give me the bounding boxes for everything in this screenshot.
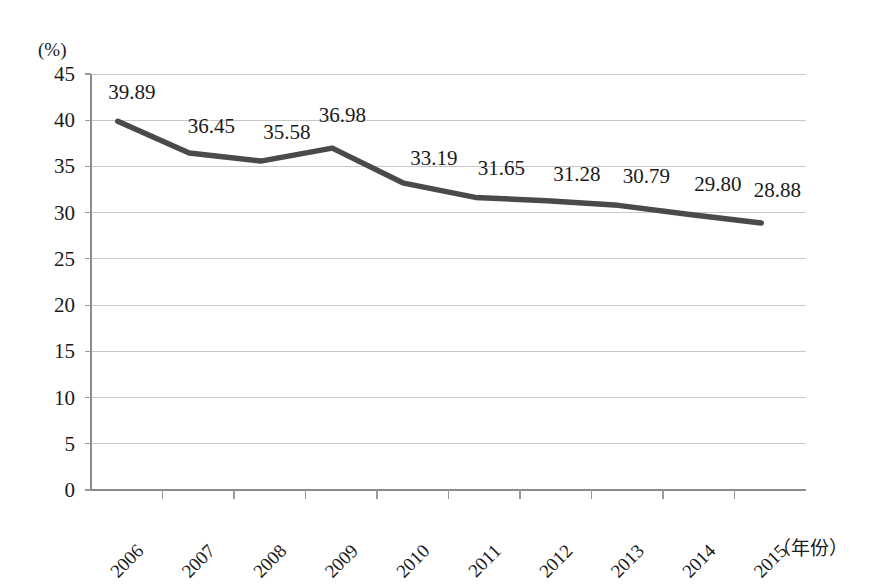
y-axis-tick-label: 30 <box>54 201 75 225</box>
y-axis-tick-label: 10 <box>54 386 75 410</box>
y-axis-tick-label: 0 <box>65 478 76 502</box>
y-axis-tick-label: 45 <box>54 62 75 86</box>
line-chart: (%) 454035302520151050 20062007200820092… <box>0 0 874 587</box>
data-point-label: 29.80 <box>694 172 741 196</box>
y-axis-tick-label: 35 <box>54 154 75 178</box>
data-point-label: 35.58 <box>263 120 310 144</box>
data-point-label: 28.88 <box>754 178 801 202</box>
data-point-label: 31.28 <box>553 162 600 186</box>
y-axis-tick-label: 15 <box>54 339 75 363</box>
data-point-label: 33.19 <box>410 146 457 170</box>
data-point-label: 36.45 <box>188 114 235 138</box>
y-axis-unit-label: (%) <box>38 39 66 61</box>
data-point-label: 31.65 <box>478 156 525 180</box>
data-point-label: 39.89 <box>108 80 155 104</box>
y-axis-tick-label: 25 <box>54 247 75 271</box>
chart-canvas: (%) 454035302520151050 20062007200820092… <box>0 0 874 587</box>
data-point-label: 36.98 <box>319 103 366 127</box>
y-axis-tick-label: 20 <box>54 293 75 317</box>
y-axis-tick-label: 5 <box>65 432 76 456</box>
data-point-label: 30.79 <box>623 164 670 188</box>
x-axis-title: （年份） <box>772 538 848 559</box>
y-axis-tick-label: 40 <box>54 108 75 132</box>
